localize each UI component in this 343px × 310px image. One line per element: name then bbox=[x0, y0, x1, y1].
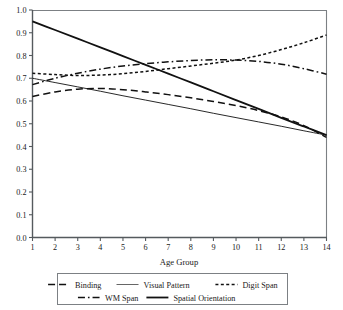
x-tick-label: 13 bbox=[300, 243, 308, 252]
line-chart-figure: 0.00.10.20.30.40.50.60.70.80.91.0 123456… bbox=[0, 0, 343, 310]
y-tick-label: 0.6 bbox=[16, 97, 26, 106]
y-tick-label: 1.0 bbox=[16, 6, 26, 15]
series-line-digit-span bbox=[33, 35, 327, 76]
x-tick-label: 6 bbox=[144, 243, 148, 252]
x-tick-label: 3 bbox=[76, 243, 80, 252]
y-tick-label: 0.1 bbox=[16, 211, 26, 220]
series-line-visual-pattern bbox=[33, 78, 327, 135]
x-tick-label: 7 bbox=[166, 243, 170, 252]
y-tick-label: 0.2 bbox=[16, 188, 26, 197]
legend-label-wm-span: WM Span bbox=[105, 294, 138, 303]
x-tick-label: 14 bbox=[322, 243, 330, 252]
series-layer bbox=[33, 21, 327, 137]
y-tick-label: 0.8 bbox=[16, 52, 26, 61]
x-tick-label: 12 bbox=[277, 243, 285, 252]
x-tick-label: 11 bbox=[255, 243, 263, 252]
series-line-spatial-orientation bbox=[33, 21, 327, 135]
x-tick-label: 10 bbox=[232, 243, 240, 252]
y-axis-ticks: 0.00.10.20.30.40.50.60.70.80.91.0 bbox=[16, 6, 32, 243]
series-line-wm-span bbox=[33, 60, 327, 85]
legend-label-visual-pattern: Visual Pattern bbox=[144, 281, 190, 290]
plot-frame bbox=[32, 10, 327, 238]
y-tick-label: 0.3 bbox=[16, 165, 26, 174]
legend-label-digit-span: Digit Span bbox=[242, 281, 277, 290]
x-tick-label: 1 bbox=[30, 243, 34, 252]
legend-label-spatial-orientation: Spatial Orientation bbox=[173, 294, 235, 303]
x-tick-label: 8 bbox=[189, 243, 193, 252]
y-tick-label: 0.7 bbox=[16, 74, 26, 83]
y-tick-label: 0.4 bbox=[16, 143, 26, 152]
y-tick-label: 0.0 bbox=[16, 234, 26, 243]
x-tick-label: 9 bbox=[211, 243, 215, 252]
legend-label-binding: Binding bbox=[75, 281, 101, 290]
x-tick-label: 5 bbox=[121, 243, 125, 252]
x-axis-title: Age Group bbox=[160, 257, 198, 267]
x-axis-ticks: 1234567891011121314 bbox=[30, 238, 330, 252]
series-line-binding bbox=[33, 88, 327, 137]
chart-legend: BindingVisual PatternDigit SpanWM SpanSp… bbox=[48, 274, 287, 305]
x-tick-label: 4 bbox=[98, 243, 102, 252]
x-tick-label: 2 bbox=[53, 243, 57, 252]
y-tick-label: 0.9 bbox=[16, 29, 26, 38]
y-tick-label: 0.5 bbox=[16, 120, 26, 129]
chart-canvas: 0.00.10.20.30.40.50.60.70.80.91.0 123456… bbox=[0, 0, 343, 310]
